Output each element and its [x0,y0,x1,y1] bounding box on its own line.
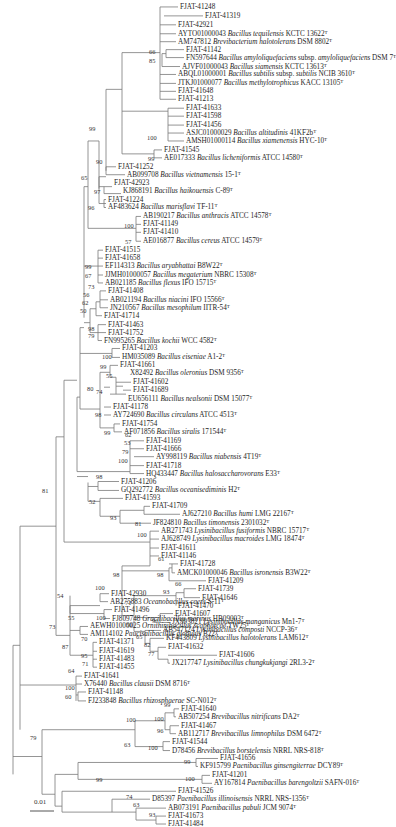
bootstrap-value: 50 [126,621,132,628]
reference-strain-label: AY724690 Bacillus circulans ATCC 4513T [113,411,237,419]
bootstrap-value: 50 [80,307,86,314]
reference-strain-label: AY167814 Paenibacillus barengoltzii SAFN… [214,779,359,787]
bootstrap-value: 79 [122,448,128,455]
bootstrap-value: 96 [157,727,163,734]
isolate-label: FJAT-41483 [99,655,134,663]
isolate-label: FJAT-42930 [111,590,146,598]
bootstrap-value: 99 [164,701,170,708]
reference-strain-label: AB073191 Paenibacillus pabuli JCM 9074T [168,804,296,812]
isolate-label: FJAT-41545 [164,146,199,154]
isolate-label: FJAT-41673 [168,812,203,820]
isolate-label: FJAT-41641 [84,672,119,680]
bootstrap-value: 79 [88,332,94,339]
bootstrap-value: 74 [126,793,132,800]
isolate-label: FJAT-41209 [208,577,243,585]
bootstrap-value: 73 [88,283,94,290]
bootstrap-value: 81 [42,487,48,494]
isolate-label: FJAT-41666 [146,445,181,453]
isolate-label: FJAT-41463 [108,321,143,329]
bootstrap-value: 60 [65,693,71,700]
reference-strain-label: KJ868191 Bacillus haikouensis C-89T [123,187,233,195]
bootstrap-value: 81 [135,520,141,527]
isolate-label: FJAT-41606 [219,651,254,659]
isolate-label: FJAT-41213 [178,95,213,103]
isolate-label: FJAT-41203 [122,344,157,352]
bootstrap-value: 90 [96,158,102,165]
bootstrap-value: 100 [137,531,147,538]
bootstrap-value: 93 [163,588,169,595]
isolate-label: FJAT-41206 [121,478,156,486]
bootstrap-value: 82 [144,641,150,648]
reference-strain-label: KF915799 Paenibacillus ginsengiterrae DC… [200,762,343,770]
isolate-label: FJAT-41714 [104,312,139,320]
reference-strain-label: JF824810 Bacillus timonensis 2301032T [153,519,269,527]
bootstrap-value: 79 [30,734,36,741]
bootstrap-value: 99 [100,363,106,370]
bootstrap-value: 87 [62,643,68,650]
isolate-label: FJAT-41408 [108,287,143,295]
bootstrap-value: 99 [89,125,95,132]
bootstrap-value: 65 [136,633,142,640]
bootstrap-value: 66 [175,580,181,587]
reference-strain-label: AM747812 Brevibacterium halotolerans DSM… [178,38,332,46]
reference-strain-label: JN210567 Bacillus mesophilum IITR-54T [110,304,230,312]
bootstrap-value: 99 [85,263,91,270]
isolate-label: FJAT-41456 [186,121,221,129]
bootstrap-value: 73 [49,623,55,630]
reference-strain-label: AM114102 Paucisalibacillus globulus B22T [90,630,218,638]
bootstrap-value: 100 [118,457,128,464]
bootstrap-value: 55 [106,372,112,379]
isolate-label: FJAT-41633 [186,104,221,112]
bootstrap-value: 80 [87,385,93,392]
bootstrap-value: 52 [89,498,95,505]
bootstrap-value: 61 [158,555,164,562]
bootstrap-value: 100 [126,716,136,723]
reference-strain-label: HM035089 Bacillus eiseniae A1-2T [122,353,225,361]
reference-strain-label: AE016877 Bacillus cereus ATCC 14579T [143,237,262,245]
bootstrap-value: 100 [148,744,158,751]
isolate-label: FJAT-41496 [114,606,149,614]
isolate-label: FJAT-41718 [146,462,181,470]
bootstrap-value: 67 [85,272,91,279]
isolate-label: FJAT-41728 [180,560,215,568]
isolate-label: FJAT-41656 [220,754,255,762]
reference-strain-label: EF114313 Bacillus aryabhattai B8W22T [105,262,223,270]
reference-strain-label: X76440 Bacillus clausii DSM 8716T [84,680,190,688]
bootstrap-value: 97 [94,188,100,195]
bootstrap-value: 63 [133,801,139,808]
isolate-label: FJAT-41658 [105,254,140,262]
bootstrap-value: 66 [149,48,155,55]
isolate-label: FJAT-41602 [133,378,168,386]
bootstrap-value: 100 [102,353,112,360]
bootstrap-value: 93 [149,811,155,818]
bootstrap-value: 53 [124,439,130,446]
isolate-label: FJAT-41689 [133,386,168,394]
bootstrap-value: 65 [81,174,87,181]
isolate-label: FJAT-42921 [178,21,213,29]
isolate-label: FJAT-41739 [198,585,233,593]
reference-strain-label: GQ292772 Bacillus oceanisediminis H2T [121,486,240,494]
bootstrap-value: 98 [88,325,94,332]
reference-strain-label: X82492 Bacillus oleronius DSM 9356T [130,369,244,377]
isolate-label: FJAT-41224 [108,196,143,204]
isolate-label: FJAT-41619 [99,647,134,655]
isolate-label: FJAT-41371 [99,638,134,646]
isolate-label: FJAT-41319 [205,12,240,20]
isolate-label: FJAT-41648 [178,87,213,95]
reference-strain-label: AMCK01000046 Bacillus isronensis B3W22T [177,569,311,577]
bootstrap-value: 64 [68,667,74,674]
reference-strain-label: ASJC01000029 Bacillus altitudinis 41KF2b… [186,129,316,137]
bootstrap-value: 74 [96,388,102,395]
reference-strain-label: D78456 Brevibacillus borstelensis NRRL N… [172,747,324,755]
reference-strain-label: FJ233848 Bacillus rhizosphaerae SC-N012T [88,697,217,705]
bootstrap-value: 100 [95,584,105,591]
isolate-label: FJAT-41248 [180,3,215,11]
bootstrap-value: 98 [157,571,163,578]
isolate-label: FJAT-41526 [178,787,213,795]
reference-strain-label: AB190217 Bacillus anthracis ATCC 14578T [143,212,271,220]
isolate-label: FJAT-41148 [88,688,123,696]
bootstrap-value: 98 [95,411,101,418]
reference-strain-label: AE017333 Bacillus licheniformis ATCC 145… [164,154,303,162]
bootstrap-value: 100 [185,775,195,782]
reference-strain-label: AJ627210 Bacillus humi LMG 22167T [182,510,294,518]
